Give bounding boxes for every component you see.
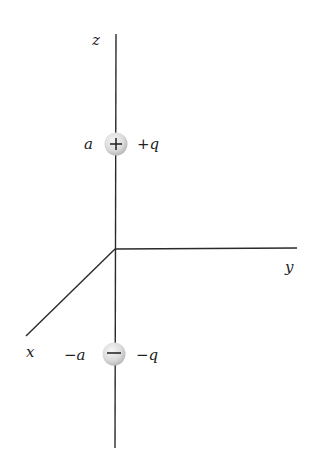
y-axis-label: y xyxy=(284,258,294,276)
negative-charge-position-label: −a xyxy=(64,346,86,364)
positive-charge xyxy=(105,133,128,156)
z-axis xyxy=(115,34,116,448)
z-axis-label: z xyxy=(91,31,100,49)
x-axis xyxy=(26,249,115,336)
dipole-diagram: z y x a +q −a −q xyxy=(0,0,325,473)
positive-charge-value-label: +q xyxy=(137,135,159,153)
negative-charge-value-label: −q xyxy=(136,346,158,364)
negative-charge-sphere xyxy=(103,343,126,366)
negative-charge xyxy=(103,343,126,366)
x-axis-label: x xyxy=(26,343,35,361)
positive-charge-position-label: a xyxy=(84,135,93,153)
y-axis xyxy=(115,248,297,249)
